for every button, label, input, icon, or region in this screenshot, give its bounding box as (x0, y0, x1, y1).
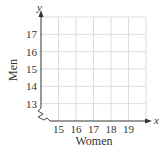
y-axis-label: Men (6, 59, 20, 81)
y-tick-label: 15 (26, 63, 38, 75)
grid-lines (41, 17, 146, 121)
x-tick-label: 15 (53, 123, 65, 135)
y-tick-labels: 1314151617 (26, 28, 38, 109)
x-tick-label: 19 (123, 123, 135, 135)
y-tick-label: 16 (26, 46, 38, 58)
chart-canvas: 1314151617 1516171819 y x Men Women (0, 0, 165, 153)
x-axis-arrow-icon (145, 119, 152, 124)
y-axis-variable: y (36, 1, 42, 13)
x-axis-label: Women (75, 134, 112, 148)
x-axis-variable: x (153, 114, 159, 126)
y-tick-label: 14 (26, 80, 38, 92)
axis-break-icon (38, 108, 50, 121)
y-tick-label: 17 (26, 28, 38, 40)
axes (38, 10, 152, 124)
y-tick-label: 13 (26, 98, 38, 110)
